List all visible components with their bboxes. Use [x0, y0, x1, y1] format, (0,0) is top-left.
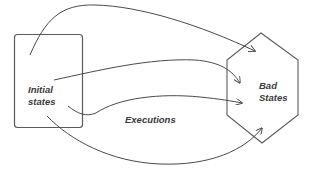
initial-states-label-line2: states [28, 96, 55, 108]
executions-label: Executions [125, 114, 176, 126]
initial-states-label-line1: Initial [28, 84, 55, 96]
initial-states-label: Initial states [28, 84, 55, 108]
bad-states-label-line2: States [259, 92, 288, 104]
execution-arrow-1 [30, 5, 255, 55]
execution-arrow-3 [68, 96, 242, 115]
initial-states-box [15, 35, 83, 128]
bad-states-label: Bad States [259, 80, 288, 104]
bad-states-label-line1: Bad [259, 80, 288, 92]
